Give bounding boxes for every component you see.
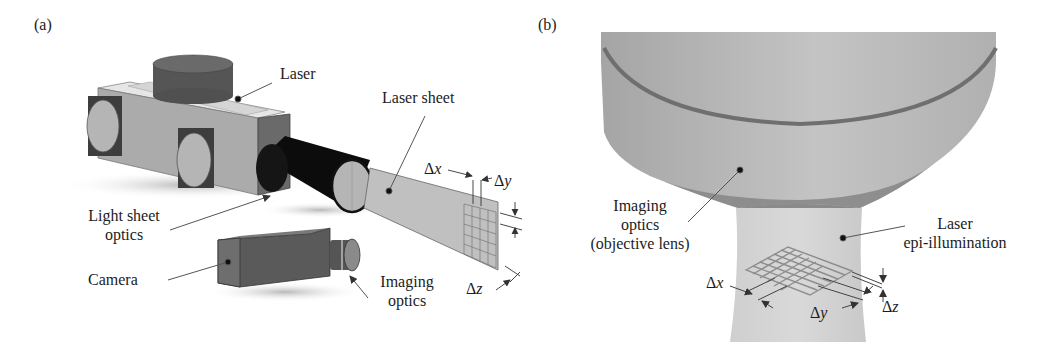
label-laser-sheet: Laser sheet <box>382 88 454 107</box>
laser-sheet <box>364 168 498 270</box>
dim-dy-a: Δy <box>494 172 511 190</box>
label-camera: Camera <box>88 270 138 289</box>
light-sheet-optics-tube <box>256 136 380 218</box>
dim-dz-b: Δz <box>882 298 899 316</box>
label-light-sheet-optics-line2: optics <box>74 225 174 244</box>
label-imaging-optics-a: Imaging optics <box>370 272 444 310</box>
label-imaging-optics-b-line1: Imaging <box>570 196 710 215</box>
label-laser-epi-illumination: Laser epi-illumination <box>880 214 1030 252</box>
label-imaging-optics-a-line2: optics <box>370 291 444 310</box>
dim-dz-a: Δz <box>466 280 483 298</box>
label-laser-epi-line1: Laser <box>880 214 1030 233</box>
objective-lens <box>601 32 996 222</box>
label-imaging-optics-b-line2: optics <box>570 215 710 234</box>
label-laser: Laser <box>280 64 316 83</box>
label-imaging-optics-b: Imaging optics (objective lens) <box>570 196 710 253</box>
dim-dx-b: Δx <box>706 274 723 292</box>
label-imaging-optics-a-line1: Imaging <box>370 272 444 291</box>
panel-b-tag: (b) <box>538 16 557 34</box>
label-imaging-optics-b-line3: (objective lens) <box>570 234 710 253</box>
dim-dx-a: Δx <box>424 160 441 178</box>
panel-a-tag: (a) <box>34 16 52 34</box>
dim-dy-b: Δy <box>810 304 827 322</box>
label-laser-epi-line2: epi-illumination <box>880 233 1030 252</box>
label-light-sheet-optics: Light sheet optics <box>74 206 174 244</box>
label-light-sheet-optics-line1: Light sheet <box>74 206 174 225</box>
